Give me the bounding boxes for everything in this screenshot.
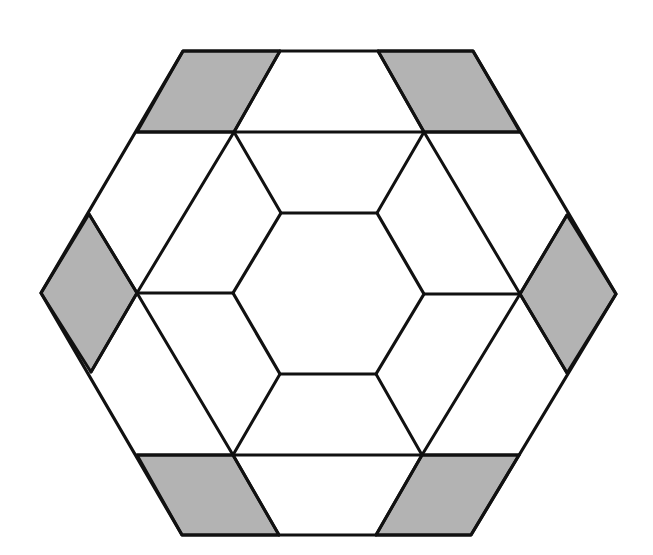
hexagon-tiling-diagram (0, 0, 653, 555)
